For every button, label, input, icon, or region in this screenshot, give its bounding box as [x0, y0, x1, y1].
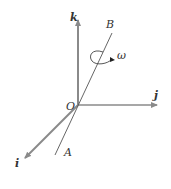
i-axis-label: i [15, 158, 19, 169]
rotation-arrow-icon [90, 51, 112, 64]
k-axis-label: k [70, 12, 78, 23]
rotation-axis-diagram: k B ω O j A i [0, 0, 171, 189]
origin-label: O [66, 101, 75, 112]
diagram-graphics [0, 0, 171, 189]
point-a-label: A [64, 147, 72, 158]
point-b-label: B [106, 19, 114, 30]
j-axis-label: j [154, 90, 158, 101]
line-ab [55, 33, 112, 155]
omega-label: ω [117, 50, 126, 61]
